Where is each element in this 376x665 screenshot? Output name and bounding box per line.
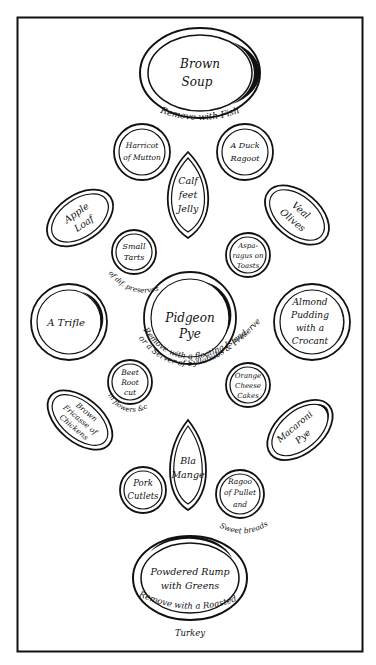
dish-label: Pidgeon [164, 311, 214, 325]
dish-label: of Mutton [123, 153, 161, 162]
dish-note: Sweet breads [218, 519, 269, 535]
dish-macaroni-pye[interactable]: Macaroni Pye [256, 388, 344, 472]
dish-label: A Trifle [46, 317, 85, 328]
dish-label: Crocant [292, 336, 329, 346]
dish-a-trifle[interactable]: A Trifle [31, 284, 107, 360]
dish-harricot-of-mutton[interactable]: Harricot of Mutton [114, 124, 170, 180]
dish-bla-mange[interactable]: Bla Mange [170, 420, 206, 510]
dish-label: Soup [182, 75, 213, 89]
dish-label: Harricot [125, 141, 159, 150]
dish-label: Mange [170, 469, 205, 480]
dish-label: Ragoot [230, 154, 261, 163]
dish-brown-soup[interactable]: Brown Soup Remove with Fish [140, 28, 260, 122]
remove-note: Remove with Fish [158, 105, 240, 122]
dish-label: of Pullet [224, 488, 257, 497]
dish-label: Orange [235, 372, 261, 380]
table-setting-diagram: Brown Soup Remove with Fish Harricot of … [0, 0, 376, 665]
dish-label: Pudding [290, 310, 329, 320]
dish-label: Root [120, 378, 140, 387]
dish-powdered-rump[interactable]: Powdered Rump with Greens Remove with a … [133, 536, 247, 638]
dish-label: Ragoo [227, 477, 253, 486]
remove-note-alt: or a Server of Syllabubs & Preserves [0, 0, 262, 368]
dish-label: cut [124, 388, 137, 397]
dish-label: A Duck [229, 141, 259, 150]
dish-label: Tarts [124, 253, 145, 262]
dish-label: Almond [292, 297, 328, 307]
dish-label: Pork [132, 478, 153, 488]
dish-label: feet [178, 189, 198, 200]
dish-ragoo-of-pullet[interactable]: Ragoo of Pullet and Sweet breads [216, 470, 270, 535]
dish-label: Jelly [176, 203, 200, 214]
dish-label: Bla [179, 455, 196, 466]
dish-label: and [233, 500, 247, 509]
dish-label: Calf [178, 175, 199, 186]
dish-small-tarts[interactable]: Small Tarts of dif. preserves [107, 230, 160, 295]
dish-label: Pye [178, 327, 201, 341]
dish-a-duck-ragoot[interactable]: A Duck Ragoot [217, 124, 273, 180]
dish-pork-cutlets[interactable]: Pork Cutlets [120, 467, 166, 513]
remove-note-continued: Turkey [175, 628, 205, 638]
dish-label: with Greens [161, 580, 220, 591]
dish-asparagus-on-toasts[interactable]: Aspa- ragus on Toasts [226, 233, 270, 277]
dish-pidgeon-pye[interactable]: Pidgeon Pye Remove with a floating Islan… [0, 0, 262, 368]
dish-label: Toasts [237, 262, 260, 270]
dish-label: Cheese [235, 382, 261, 390]
dish-label: ragus on [232, 252, 264, 260]
dish-orange-cheese-cakes[interactable]: Orange Cheese Cakes [226, 363, 270, 407]
remove-note: Remove with a Roasted [137, 589, 239, 611]
dish-label: Aspa- [237, 242, 258, 250]
dish-beet-root[interactable]: Beet Root cut in flowers &c [106, 360, 152, 414]
dish-apple-loaf[interactable]: Apple Loaf [36, 178, 123, 258]
dish-label: Brown [179, 57, 220, 71]
dish-label: Powdered Rump [149, 566, 229, 577]
dish-label: Cakes [237, 392, 259, 400]
dish-almond-pudding[interactable]: Almond Pudding with a Crocant [274, 284, 350, 360]
dish-label: Beet [120, 368, 139, 377]
dish-label: with a [296, 323, 324, 333]
dish-label: Cutlets [128, 491, 160, 501]
dish-calf-feet-jelly[interactable]: Calf feet Jelly [168, 152, 209, 238]
dish-label: Small [123, 242, 146, 251]
